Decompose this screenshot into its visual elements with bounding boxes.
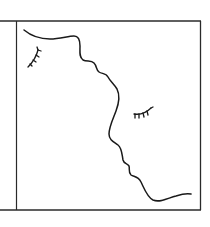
face-profile-line xyxy=(24,30,191,201)
face-profile-illustration xyxy=(0,0,210,227)
closed-eye-right-icon xyxy=(134,107,153,118)
closed-eye-left-icon xyxy=(28,47,41,67)
